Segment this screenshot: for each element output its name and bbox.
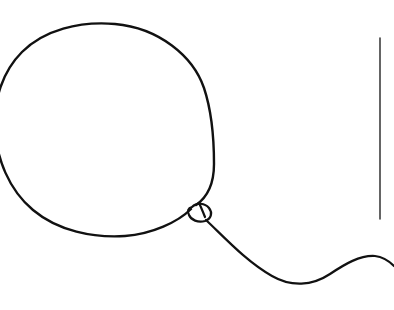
canvas-background [0, 0, 394, 310]
drawing-canvas [0, 0, 394, 310]
balloon-illustration [0, 0, 394, 310]
